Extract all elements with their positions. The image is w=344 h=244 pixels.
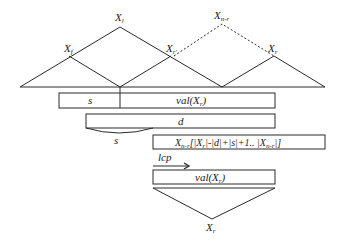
node-xl: Xl: [114, 11, 124, 25]
val-label: val(Xr): [176, 94, 207, 108]
s-label: s: [88, 94, 92, 106]
d-label: d: [178, 115, 184, 127]
dashed-xnr: [174, 24, 274, 56]
s-brace-label: s: [114, 134, 118, 146]
triangle-xr: [222, 56, 325, 87]
s-brace: [86, 128, 153, 133]
node-bottom-xr: Xr: [205, 221, 216, 235]
node-xf: Xf: [63, 42, 74, 56]
node-xnr: Xn-r: [213, 9, 230, 23]
triangle-inner-left: [69, 56, 171, 87]
node-xr: Xr: [267, 42, 278, 56]
val2-label: val(Xr): [195, 171, 226, 185]
triangle-xl: [20, 27, 222, 87]
node-xr-prime: Xr': [165, 42, 177, 56]
diagram-canvas: Xl Xn-r Xf Xr' Xr s val(Xr) d s Xn-r[|Xr…: [0, 0, 344, 244]
triangle-bottom-xr: [153, 188, 275, 219]
lcp-label: lcp: [158, 151, 172, 163]
